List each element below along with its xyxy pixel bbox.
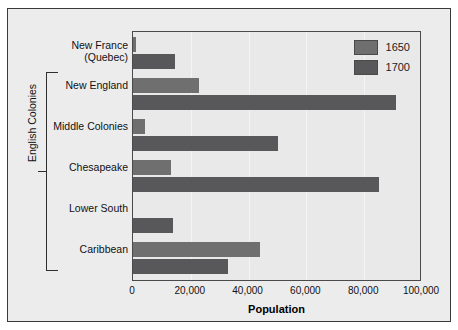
bar-middle-colonies-1700[interactable]: [133, 136, 278, 151]
english-colonies-bracket-tick: [38, 171, 46, 172]
bar-group-middle-colonies: [133, 117, 420, 158]
bar-group-chesapeake: [133, 158, 420, 199]
legend: 1650 1700: [354, 40, 410, 75]
legend-label-1650: 1650: [386, 42, 410, 53]
bar-group-lower-south: [133, 199, 420, 240]
bar-lower-south-1700[interactable]: [133, 218, 173, 233]
y-label-new-france: New France (Quebec): [38, 39, 128, 63]
legend-entry-1650[interactable]: 1650: [354, 40, 410, 55]
bar-new-england-1700[interactable]: [133, 95, 396, 110]
x-tick-0: 0: [129, 285, 135, 296]
x-tick-20000: 20,000: [175, 285, 206, 296]
bar-chesapeake-1650[interactable]: [133, 160, 171, 175]
bar-caribbean-1700[interactable]: [133, 259, 228, 274]
bar-middle-colonies-1650[interactable]: [133, 119, 145, 134]
legend-swatch-1650-icon: [354, 40, 378, 55]
plot-area: 1650 1700: [132, 31, 421, 281]
bar-new-france-1700[interactable]: [133, 54, 175, 69]
bar-group-new-england: [133, 76, 420, 117]
english-colonies-bracket-label: English Colonies: [26, 58, 38, 188]
bar-caribbean-1650[interactable]: [133, 242, 260, 257]
x-tick-60000: 60,000: [290, 285, 321, 296]
x-tick-80000: 80,000: [348, 285, 379, 296]
legend-swatch-1700-icon: [354, 60, 378, 75]
legend-label-1700: 1700: [386, 62, 410, 73]
y-label-new-france-line2: (Quebec): [38, 51, 128, 63]
x-tick-40000: 40,000: [232, 285, 263, 296]
x-tick-100000: 100,000: [403, 285, 439, 296]
y-label-new-france-line1: New France: [38, 39, 128, 51]
bar-new-france-1650[interactable]: [133, 37, 136, 52]
legend-entry-1700[interactable]: 1700: [354, 60, 410, 75]
population-bar-chart-figure: New France (Quebec) New England Middle C…: [0, 0, 458, 330]
x-axis-tick-labels: 0 20,000 40,000 60,000 80,000 100,000: [132, 285, 421, 299]
bar-group-caribbean: [133, 240, 420, 281]
english-colonies-bracket: [46, 72, 58, 271]
bar-new-england-1650[interactable]: [133, 78, 199, 93]
x-axis-title: Population: [132, 303, 421, 315]
bar-chesapeake-1700[interactable]: [133, 177, 379, 192]
figure-frame: New France (Quebec) New England Middle C…: [7, 8, 451, 322]
